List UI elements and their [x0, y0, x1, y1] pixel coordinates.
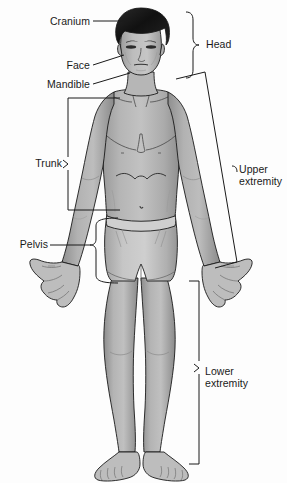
lower-extremity-arrow: [194, 364, 199, 372]
label-upper-extremity: Upper extremity: [239, 164, 287, 187]
head-brace: [186, 12, 199, 78]
label-lower-extremity: Lower extremity: [205, 366, 265, 389]
body-regions-diagram: Cranium Face Mandible Trunk Pelvis Head …: [0, 0, 287, 483]
leg-left: [104, 278, 138, 452]
lower-extremity-bracket: [189, 281, 199, 464]
label-mandible: Mandible: [22, 79, 90, 91]
label-cranium: Cranium: [30, 16, 90, 28]
neck: [124, 72, 158, 96]
upper-extremity-brace-tip: [232, 166, 237, 172]
face-leader-line: [93, 55, 124, 65]
mandible-leader-line: [93, 73, 130, 84]
label-face: Face: [30, 60, 90, 72]
foot-right: [143, 452, 188, 481]
label-pelvis: Pelvis: [8, 239, 48, 251]
label-trunk: Trunk: [22, 158, 62, 170]
trunk-arrow: [63, 160, 68, 168]
foot-left: [95, 452, 140, 481]
label-head: Head: [206, 39, 262, 51]
leg-right: [141, 278, 175, 452]
